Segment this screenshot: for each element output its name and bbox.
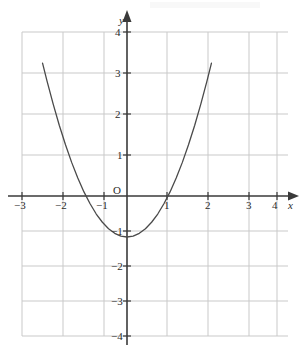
x-tick-label--3: −3 <box>14 200 26 211</box>
x-tick-label-2: 2 <box>205 200 211 211</box>
coordinate-plane-svg <box>0 0 303 363</box>
y-axis-label: y <box>119 15 124 26</box>
y-tick-label-2: 2 <box>115 109 121 120</box>
x-tick-label-1: 1 <box>164 200 170 211</box>
graph-figure: −3 −2 −1 1 2 3 4 4 3 2 1 −1 −2 −3 −4 O x… <box>0 0 303 363</box>
x-tick-label--1: −1 <box>96 200 108 211</box>
y-tick-label-3: 3 <box>115 68 121 79</box>
y-tick-label--3: −3 <box>111 296 123 307</box>
y-axis <box>123 10 132 345</box>
grid-lines-horizontal <box>22 32 288 336</box>
x-tick-label--2: −2 <box>55 200 67 211</box>
x-axis-label: x <box>288 200 293 211</box>
y-tick-label-1: 1 <box>117 150 123 161</box>
grid-lines-vertical <box>22 32 277 336</box>
x-axis <box>8 192 299 201</box>
origin-label: O <box>113 185 121 196</box>
x-tick-label-4: 4 <box>272 200 278 211</box>
y-tick-label--1: −1 <box>111 226 123 237</box>
x-tick-label-3: 3 <box>246 200 252 211</box>
y-tick-label--2: −2 <box>111 261 123 272</box>
y-tick-label--4: −4 <box>111 331 123 342</box>
y-tick-label-4: 4 <box>115 27 121 38</box>
